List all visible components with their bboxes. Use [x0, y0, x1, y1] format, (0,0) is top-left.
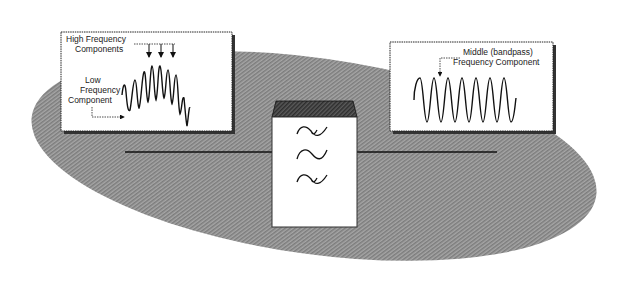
- high-frequency-label-line2: Components: [75, 44, 123, 54]
- bandpass-label-line2: Frequency Component: [453, 57, 540, 67]
- output-signal-panel: Middle (bandpass) Frequency Component: [390, 42, 556, 134]
- bandpass-label-line1: Middle (bandpass): [463, 47, 533, 57]
- low-frequency-label-line2: Frequency: [80, 85, 121, 95]
- input-signal-panel: High Frequency Components Low Frequency …: [61, 32, 235, 134]
- bandpass-filter-diagram: High Frequency Components Low Frequency …: [0, 0, 619, 294]
- low-frequency-label-line3: Component: [68, 95, 113, 105]
- filter-top-face: [272, 101, 357, 117]
- low-frequency-label-line1: Low: [85, 75, 101, 85]
- high-frequency-label-line1: High Frequency: [66, 34, 127, 44]
- bandpass-filter-block: [272, 101, 357, 227]
